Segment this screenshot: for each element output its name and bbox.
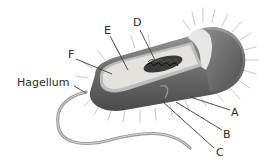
label-b: B (223, 129, 231, 140)
label-a: A (231, 107, 239, 118)
label-d: D (133, 17, 141, 28)
label-c: C (216, 147, 224, 158)
label-flagellum: Hagellum (17, 77, 70, 88)
label-f: F (68, 49, 74, 60)
bacterial-cell-diagram: D E F Hagellum A B C (0, 0, 267, 168)
label-e: E (104, 25, 111, 36)
